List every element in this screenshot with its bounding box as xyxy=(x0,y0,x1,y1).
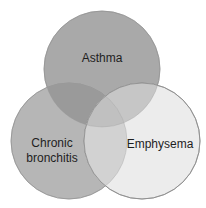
asthma-label: Asthma xyxy=(82,51,123,65)
venn-diagram: Asthma Chronic bronchitis Emphysema xyxy=(0,0,206,208)
chronic-bronchitis-label-line2: bronchitis xyxy=(26,151,77,165)
chronic-bronchitis-label-line1: Chronic xyxy=(31,136,72,150)
emphysema-label: Emphysema xyxy=(127,137,194,151)
